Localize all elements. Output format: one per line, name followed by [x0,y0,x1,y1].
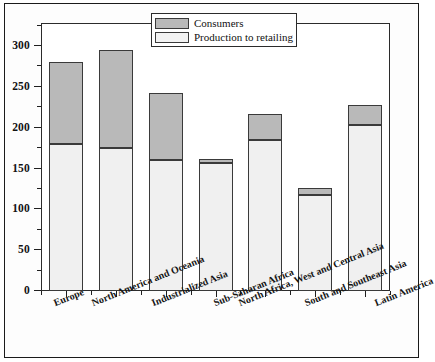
bars-layer [41,23,390,291]
y-tick-major [34,86,41,87]
bar-segment-consumers [199,159,233,163]
y-tick-label: 150 [12,162,30,174]
legend-item-consumers: Consumers [155,16,293,30]
bar-segment-production [99,148,133,291]
y-tick-major [34,45,41,46]
legend-item-production: Production to retailing [155,30,293,44]
y-tick-major [34,208,41,209]
y-tick-major [34,127,41,128]
bar-segment-consumers [99,50,133,148]
bar-segment-consumers [149,93,183,160]
chart-legend: Consumers Production to retailing [151,13,297,47]
y-tick-label: 250 [12,80,30,92]
bar-1 [49,62,83,291]
y-axis: 050100150200250300 [0,0,41,291]
bar-segment-consumers [348,105,382,125]
bar-segment-consumers [298,188,332,195]
bar-segment-consumers [49,62,83,144]
legend-label-production: Production to retailing [194,31,293,43]
legend-label-consumers: Consumers [194,17,244,29]
y-tick-label: 300 [12,39,30,51]
bar-5 [248,114,282,291]
x-axis-category-labels: EuropeNorth America and OceaniaIndustria… [0,291,424,362]
y-tick-major [34,168,41,169]
consumers-swatch [155,18,189,29]
bar-segment-production [49,144,83,291]
production-swatch [155,32,189,43]
bar-2 [99,50,133,291]
bar-7 [348,105,382,291]
y-tick-major [34,249,41,250]
bar-segment-production [248,140,282,291]
bar-segment-consumers [248,114,282,140]
bar-segment-production [348,125,382,291]
y-tick-label: 200 [12,121,30,133]
y-tick-label: 100 [12,202,30,214]
y-tick-label: 50 [18,243,30,255]
